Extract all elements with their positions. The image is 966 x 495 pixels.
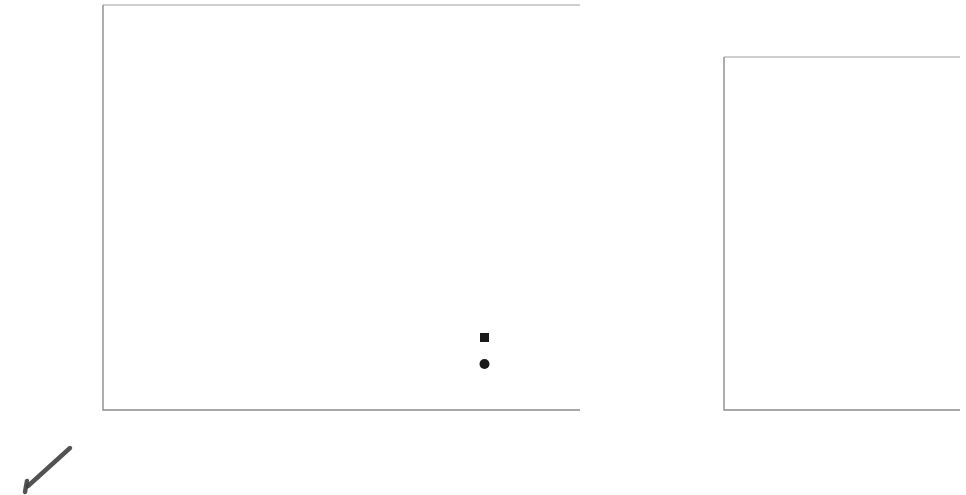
plot-axes-a [103, 5, 580, 410]
legend-marker-cat-1-icon [480, 333, 489, 342]
scan-artifact [0, 420, 120, 495]
panel-b-boxplot [600, 0, 966, 495]
legend-marker-cat-2-icon [480, 359, 490, 369]
legend-a [480, 333, 490, 369]
figure-root [0, 0, 966, 495]
boxplot-svg [600, 0, 966, 495]
plot-axes-b [724, 57, 960, 410]
